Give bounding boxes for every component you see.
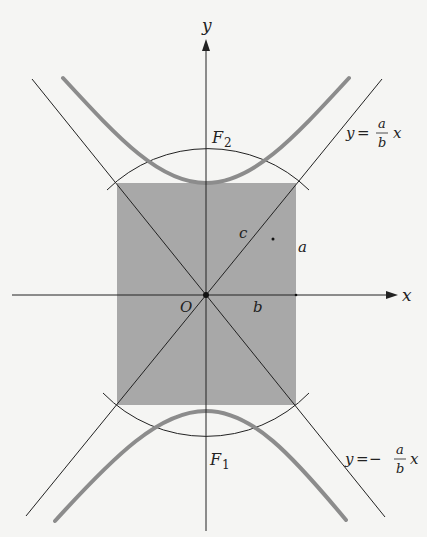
svg-text:x: x bbox=[393, 124, 402, 142]
svg-text:1: 1 bbox=[222, 458, 230, 472]
svg-text:y: y bbox=[345, 124, 355, 142]
asymptote-negative bbox=[32, 79, 385, 517]
a-label: a bbox=[298, 238, 307, 256]
asymptote-negative-equation: y = − a b x bbox=[344, 442, 419, 476]
svg-text:y: y bbox=[344, 450, 354, 468]
asymptote-positive-equation: y = a b x bbox=[345, 116, 402, 150]
svg-text:a: a bbox=[396, 442, 404, 457]
svg-text:−: − bbox=[369, 450, 382, 468]
vertex-b-point bbox=[295, 294, 298, 297]
svg-text:2: 2 bbox=[224, 136, 232, 150]
hyperbola-diagram: y x O b a c F 2 F 1 y = a b x y = − a b … bbox=[0, 0, 427, 537]
x-axis-label: x bbox=[402, 285, 412, 305]
c-label: c bbox=[239, 224, 248, 242]
svg-text:b: b bbox=[396, 461, 404, 476]
focus-f1-label: F 1 bbox=[209, 450, 230, 472]
b-label: b bbox=[253, 298, 263, 316]
y-axis-label: y bbox=[201, 15, 212, 35]
y-axis-arrow-icon bbox=[202, 39, 210, 51]
x-axis-arrow-icon bbox=[386, 291, 398, 299]
svg-text:=: = bbox=[356, 450, 369, 468]
svg-text:x: x bbox=[410, 450, 419, 468]
svg-text:F: F bbox=[209, 450, 222, 469]
svg-text:a: a bbox=[378, 116, 386, 131]
origin-label: O bbox=[180, 298, 192, 316]
svg-text:b: b bbox=[378, 135, 386, 150]
origin-point bbox=[203, 292, 209, 298]
svg-text:F: F bbox=[211, 128, 224, 147]
svg-text:=: = bbox=[357, 124, 370, 142]
focus-f2-label: F 2 bbox=[211, 128, 232, 150]
asymptote-positive bbox=[26, 79, 382, 516]
marker-dot bbox=[272, 238, 275, 241]
